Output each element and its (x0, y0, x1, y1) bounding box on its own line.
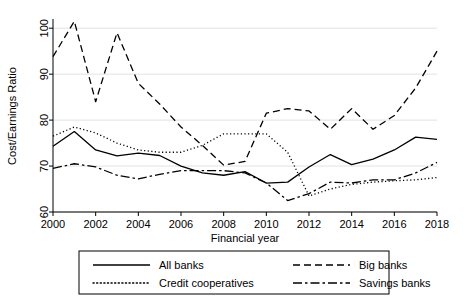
y-axis-title: Cost/Earnings Ratio (6, 67, 18, 165)
legend-label-all-banks: All banks (159, 259, 204, 271)
chart-figure: 60708090100 2000200220042006200820102012… (0, 0, 465, 299)
x-tick-label: 2002 (83, 218, 107, 230)
line-chart: 60708090100 2000200220042006200820102012… (0, 0, 465, 299)
y-tick-label: 90 (38, 68, 50, 80)
legend-label-big-banks: Big banks (359, 259, 408, 271)
legend-label-savings-banks: Savings banks (359, 277, 431, 289)
x-axis-title: Financial year (211, 232, 280, 244)
x-tick-label: 2016 (382, 218, 406, 230)
x-tick-label: 2004 (126, 218, 150, 230)
y-tick-label: 100 (38, 19, 50, 37)
y-tick-label: 60 (38, 206, 50, 218)
y-tick-label: 70 (38, 160, 50, 172)
x-tick-label: 2010 (254, 218, 278, 230)
x-tick-label: 2012 (297, 218, 321, 230)
y-tick-label: 80 (38, 114, 50, 126)
x-tick-label: 2018 (425, 218, 449, 230)
x-tick-label: 2008 (211, 218, 235, 230)
x-tick-label: 2014 (339, 218, 363, 230)
x-tick-label: 2000 (41, 218, 65, 230)
x-tick-label: 2006 (169, 218, 193, 230)
legend-label-credit-cooperatives: Credit cooperatives (159, 277, 254, 289)
